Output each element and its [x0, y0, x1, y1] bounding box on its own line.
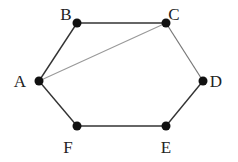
node-f [73, 122, 82, 131]
edge-f-a [39, 81, 77, 126]
node-d [199, 77, 208, 86]
edge-c-d [166, 23, 203, 81]
node-label-d: D [210, 72, 222, 91]
node-label-b: B [60, 5, 71, 24]
node-b [73, 19, 82, 28]
edge-d-e [166, 81, 203, 126]
node-a [35, 77, 44, 86]
node-e [162, 122, 171, 131]
node-label-e: E [161, 138, 171, 157]
edges-group [39, 23, 203, 126]
labels-group: ABCDEF [14, 5, 222, 157]
node-label-c: C [168, 5, 179, 24]
node-label-a: A [14, 72, 27, 91]
hexagon-graph-diagram: ABCDEF [0, 0, 238, 162]
nodes-group [35, 19, 208, 131]
node-label-f: F [63, 138, 72, 157]
